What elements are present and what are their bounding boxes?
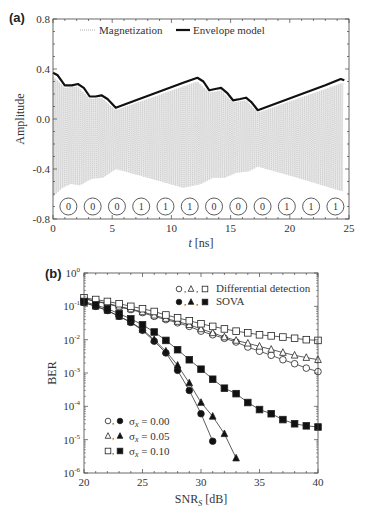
marker-square bbox=[116, 310, 123, 317]
x-axis-label: t [ns] bbox=[188, 236, 213, 250]
bit-value: 0 bbox=[90, 201, 95, 212]
marker-square bbox=[233, 390, 240, 397]
marker-square bbox=[105, 448, 111, 454]
marker-circle bbox=[176, 286, 182, 292]
marker-square bbox=[198, 366, 205, 373]
y-tick-label: 100 bbox=[66, 266, 81, 279]
marker-circle bbox=[280, 356, 287, 363]
marker-triangle bbox=[105, 433, 111, 439]
chart-a-amplitude-vs-time: 0510152025-0.8-0.40.00.40.8t [ns]Amplitu… bbox=[13, 13, 355, 250]
marker-square bbox=[202, 286, 208, 292]
bit-value: 1 bbox=[163, 201, 168, 212]
y-tick-label: 10-3 bbox=[63, 366, 80, 379]
bit-sequence: 000111000111 bbox=[60, 198, 344, 215]
marker-square bbox=[151, 329, 158, 336]
bit-value: 1 bbox=[187, 201, 192, 212]
bit-value: 1 bbox=[309, 201, 314, 212]
bit-value: 0 bbox=[260, 201, 265, 212]
svg-text:,: , bbox=[196, 297, 198, 307]
x-tick-label: 15 bbox=[225, 222, 237, 234]
svg-text:,: , bbox=[112, 446, 114, 456]
legend-sigma-row: σx = 0.00 bbox=[129, 415, 170, 429]
legend-sova: SOVA bbox=[216, 295, 245, 307]
legend-b-methods: ,,Differential detection,,SOVA bbox=[176, 282, 310, 307]
marker-square bbox=[221, 385, 228, 392]
marker-triangle bbox=[198, 399, 205, 406]
marker-square bbox=[117, 448, 123, 454]
figure: 0510152025-0.8-0.40.00.40.8t [ns]Amplitu… bbox=[0, 0, 367, 519]
marker-square bbox=[174, 346, 181, 353]
legend-differential-detection: Differential detection bbox=[216, 282, 311, 294]
marker-square bbox=[128, 303, 135, 310]
marker-triangle bbox=[233, 454, 240, 461]
x-tick-label: 30 bbox=[196, 476, 208, 488]
bit-value: 1 bbox=[333, 201, 338, 212]
legend-sigma-row: σx = 0.05 bbox=[129, 430, 170, 444]
marker-square bbox=[209, 323, 216, 330]
x-tick-label: 0 bbox=[50, 222, 56, 234]
marker-circle bbox=[105, 418, 111, 424]
marker-square bbox=[202, 299, 208, 305]
marker-circle bbox=[209, 438, 216, 445]
y-tick-label: 10-2 bbox=[63, 333, 80, 346]
y-tick-label: 10-5 bbox=[63, 433, 80, 446]
marker-square bbox=[268, 333, 275, 340]
chart-b-ber-vs-snr: 202530354010010-110-210-310-410-510-6SNR… bbox=[45, 266, 324, 508]
marker-square bbox=[198, 320, 205, 327]
y-tick-label: 10-1 bbox=[63, 299, 80, 312]
x-tick-label: 40 bbox=[313, 476, 325, 488]
marker-square bbox=[151, 308, 158, 315]
marker-circle bbox=[186, 387, 193, 394]
marker-square bbox=[104, 298, 111, 305]
marker-square bbox=[163, 312, 170, 319]
svg-text:,: , bbox=[112, 416, 114, 426]
x-tick-label: 20 bbox=[79, 476, 91, 488]
x-tick-label: 10 bbox=[166, 222, 178, 234]
y-tick-label: 0.0 bbox=[36, 113, 50, 125]
y-tick-label: -0.4 bbox=[33, 163, 51, 175]
marker-square bbox=[280, 416, 287, 423]
marker-square bbox=[245, 399, 252, 406]
marker-square bbox=[268, 410, 275, 417]
bit-value: 1 bbox=[284, 201, 289, 212]
legend-b-sigma: ,σx = 0.00,σx = 0.05,σx = 0.10 bbox=[105, 415, 170, 459]
marker-square bbox=[209, 376, 216, 383]
legend-envelope-model: Envelope model bbox=[193, 24, 265, 36]
marker-circle bbox=[303, 365, 310, 372]
marker-circle bbox=[176, 299, 182, 305]
marker-square bbox=[303, 336, 310, 343]
x-tick-label: 35 bbox=[254, 476, 266, 488]
marker-square bbox=[245, 330, 252, 337]
marker-circle bbox=[291, 360, 298, 367]
marker-circle bbox=[117, 418, 123, 424]
marker-square bbox=[139, 321, 146, 328]
marker-square bbox=[163, 337, 170, 344]
marker-square bbox=[139, 305, 146, 312]
marker-square bbox=[291, 420, 298, 427]
x-tick-label: 25 bbox=[137, 476, 149, 488]
svg-text:,: , bbox=[196, 284, 198, 294]
bit-value: 0 bbox=[236, 201, 241, 212]
marker-square bbox=[186, 317, 193, 324]
marker-square bbox=[174, 315, 181, 322]
bit-value: 1 bbox=[139, 201, 144, 212]
marker-square bbox=[186, 356, 193, 363]
svg-text:,: , bbox=[112, 431, 114, 441]
marker-square bbox=[291, 335, 298, 342]
marker-triangle bbox=[188, 286, 194, 292]
y-axis-label: Amplitude bbox=[13, 93, 27, 144]
y-tick-label: -0.8 bbox=[33, 213, 51, 225]
x-tick-label: 20 bbox=[284, 222, 296, 234]
marker-square bbox=[128, 316, 135, 323]
y-tick-label: 10-4 bbox=[63, 399, 80, 412]
bit-value: 0 bbox=[114, 201, 119, 212]
y-tick-label: 0.8 bbox=[36, 13, 50, 25]
marker-square bbox=[104, 305, 111, 312]
marker-square bbox=[256, 331, 263, 338]
legend-magnetization: Magnetization bbox=[99, 24, 163, 36]
legend-sigma-row: σx = 0.10 bbox=[129, 445, 170, 459]
marker-square bbox=[303, 423, 310, 430]
marker-triangle bbox=[117, 433, 123, 439]
marker-square bbox=[221, 326, 228, 333]
bit-value: 0 bbox=[66, 201, 71, 212]
